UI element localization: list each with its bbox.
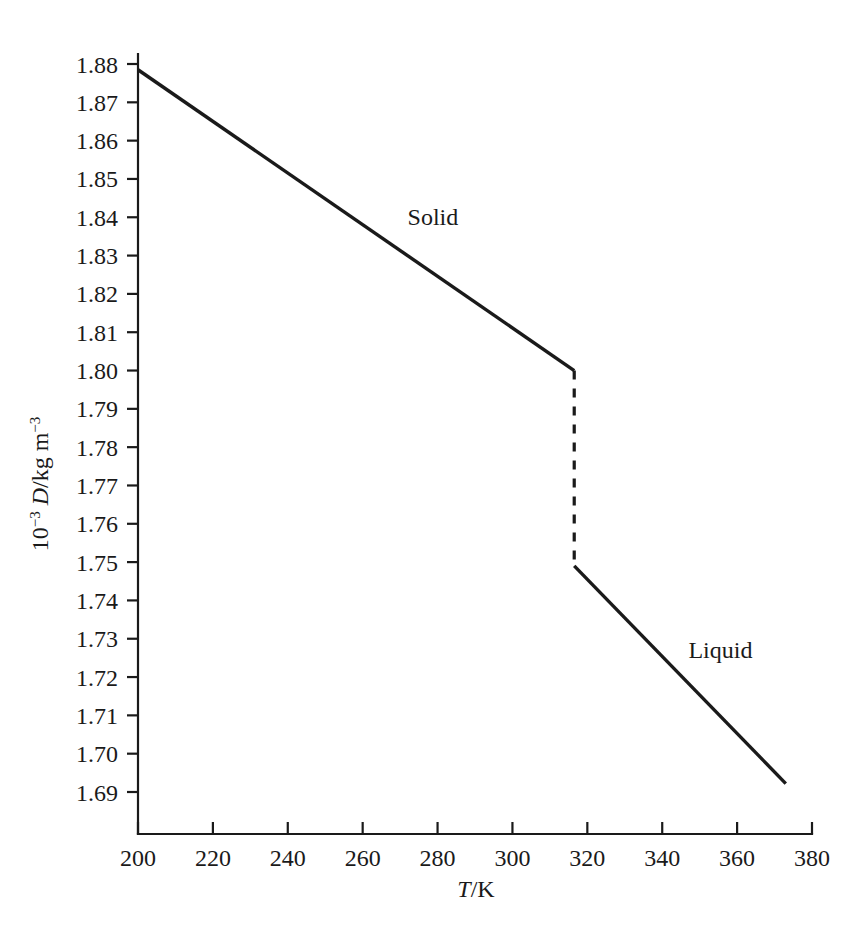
- y-tick-label: 1.74: [76, 588, 118, 614]
- y-tick-label: 1.70: [76, 741, 118, 767]
- x-tick-label: 360: [719, 845, 755, 871]
- y-tick-label: 1.75: [76, 550, 118, 576]
- series-label-solid: Solid: [408, 204, 459, 230]
- x-tick-label: 340: [644, 845, 680, 871]
- density-vs-temperature-chart: 1.691.701.711.721.731.741.751.761.771.78…: [0, 0, 866, 932]
- chart-figure: 1.691.701.711.721.731.741.751.761.771.78…: [0, 0, 866, 932]
- y-tick-label: 1.69: [76, 780, 118, 806]
- y-tick-label: 1.80: [76, 358, 118, 384]
- series-label-liquid: Liquid: [688, 637, 752, 663]
- y-tick-label: 1.78: [76, 435, 118, 461]
- y-tick-label: 1.76: [76, 511, 118, 537]
- y-tick-label: 1.84: [76, 205, 118, 231]
- x-tick-label: 300: [494, 845, 530, 871]
- y-tick-label: 1.79: [76, 396, 118, 422]
- x-tick-label: 240: [270, 845, 306, 871]
- y-tick-label: 1.86: [76, 128, 118, 154]
- x-tick-label: 260: [345, 845, 381, 871]
- x-axis-title: T/K: [457, 876, 495, 902]
- x-tick-label: 380: [794, 845, 830, 871]
- x-tick-label: 320: [569, 845, 605, 871]
- x-tick-label: 200: [120, 845, 156, 871]
- x-tick-label: 280: [420, 845, 456, 871]
- y-axis-title: 10−3 D/kg m−3: [27, 417, 53, 552]
- svg-text:10−3 D/kg m−3: 10−3 D/kg m−3: [27, 417, 53, 552]
- y-tick-label: 1.83: [76, 243, 118, 269]
- y-tick-label: 1.87: [76, 90, 118, 116]
- y-tick-label: 1.77: [76, 473, 118, 499]
- y-tick-label: 1.71: [76, 703, 118, 729]
- y-tick-label: 1.72: [76, 665, 118, 691]
- x-tick-label: 220: [195, 845, 231, 871]
- y-tick-label: 1.81: [76, 320, 118, 346]
- y-tick-label: 1.73: [76, 626, 118, 652]
- y-tick-label: 1.88: [76, 52, 118, 78]
- y-tick-label: 1.85: [76, 166, 118, 192]
- y-tick-label: 1.82: [76, 281, 118, 307]
